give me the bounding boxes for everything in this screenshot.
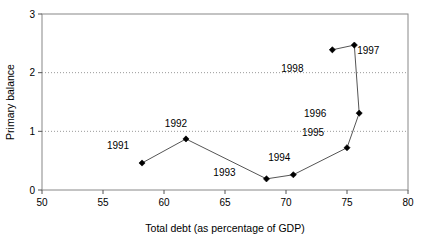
y-axis-ticks: 0123 [29, 9, 42, 196]
point-label-1993: 1993 [213, 167, 236, 178]
y-tick-label-1: 1 [29, 126, 35, 137]
x-tick-label-60: 60 [158, 197, 170, 208]
point-label-1996: 1996 [304, 108, 327, 119]
y-tick-label-3: 3 [29, 9, 35, 20]
point-label-1995: 1995 [302, 127, 325, 138]
plot-area-border [42, 14, 408, 190]
x-tick-label-75: 75 [341, 197, 353, 208]
point-label-1997: 1997 [357, 45, 380, 56]
point-label-1991: 1991 [107, 140, 130, 151]
plot-frame [42, 14, 408, 190]
point-label-1994: 1994 [268, 152, 291, 163]
y-tick-label-2: 2 [29, 67, 35, 78]
point-label-1998: 1998 [281, 63, 304, 74]
x-tick-label-80: 80 [402, 197, 414, 208]
x-tick-label-65: 65 [219, 197, 231, 208]
x-tick-label-70: 70 [280, 197, 292, 208]
y-axis-title: Primary balance [4, 64, 16, 140]
x-tick-label-55: 55 [97, 197, 109, 208]
x-axis-title: Total debt (as percentage of GDP) [145, 222, 304, 234]
chart-container: 0123 50556065707580 19911992199319941995… [0, 0, 430, 239]
x-tick-label-50: 50 [36, 197, 48, 208]
x-axis-ticks: 50556065707580 [36, 190, 414, 208]
point-label-1992: 1992 [165, 118, 188, 129]
y-tick-label-0: 0 [29, 185, 35, 196]
line-chart: 0123 50556065707580 19911992199319941995… [0, 0, 430, 239]
